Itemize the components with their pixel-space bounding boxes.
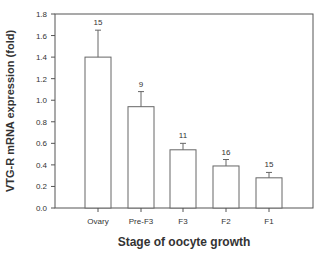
y-tick-label: 1.6 [36,32,48,41]
bar-annotation: 16 [222,148,231,157]
x-tick-label: Pre-F3 [129,217,154,226]
bar-pre-f3: 9 [128,80,154,208]
x-axis-ticks: OvaryPre-F3F3F2F1 [87,208,274,226]
y-tick-label: 1.8 [36,10,48,19]
bar-rect [256,178,282,208]
y-tick-label: 0.6 [36,139,48,148]
bar-f2: 16 [213,148,239,209]
y-tick-label: 0.0 [36,204,48,213]
bar-f1: 15 [256,160,282,208]
y-tick-label: 0.2 [36,182,48,191]
x-tick-label: F1 [264,217,274,226]
bar-f3: 11 [170,131,196,208]
bar-rect [170,150,196,208]
bar-rect [213,166,239,208]
x-tick-label: Ovary [87,217,108,226]
y-tick-label: 0.4 [36,161,48,170]
y-tick-label: 0.8 [36,118,48,127]
bar-annotation: 15 [265,160,274,169]
y-tick-label: 1.0 [36,96,48,105]
bar-rect [128,107,154,208]
bar-annotation: 15 [94,18,103,27]
bar-ovary: 15 [85,18,111,208]
y-tick-label: 1.4 [36,53,48,62]
y-axis-label: VTG-R mRNA expression (fold) [4,30,16,192]
x-tick-label: F2 [221,217,231,226]
bar-annotation: 11 [179,131,188,140]
bar-rect [85,57,111,208]
x-axis-label: Stage of oocyte growth [118,235,251,249]
bars: 159111615 [85,18,282,208]
bar-chart: 0.00.20.40.60.81.01.21.41.61.8 159111615… [0,0,323,257]
y-axis-ticks: 0.00.20.40.60.81.01.21.41.61.8 [36,10,55,213]
x-tick-label: F3 [178,217,188,226]
y-tick-label: 1.2 [36,75,48,84]
bar-annotation: 9 [139,80,144,89]
